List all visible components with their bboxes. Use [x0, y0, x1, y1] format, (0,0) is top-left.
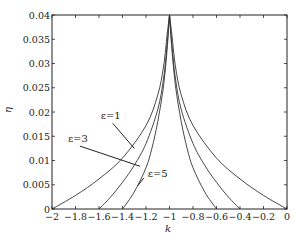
y-tick-label: 0.005	[23, 179, 50, 190]
curve-ε-5	[123, 15, 170, 209]
y-tick-label: 0.035	[23, 34, 50, 45]
x-tick-label: −1.6	[87, 211, 110, 222]
annotation-label: ε=5	[148, 168, 168, 179]
x-axis-label: k	[165, 223, 171, 234]
y-tick-label: 0.04	[29, 10, 50, 21]
x-tick-label: −0.6	[205, 211, 228, 222]
annotation-pointer	[80, 146, 140, 166]
y-tick-label: 0.015	[23, 131, 50, 142]
curve-ε-3	[170, 15, 241, 209]
line-chart: ε=1ε=3ε=5 −2−1.8−1.6−1.4−1.2−1−0.8−0.6−0…	[0, 0, 294, 242]
y-tick-label: 0.03	[29, 58, 50, 69]
annotation-label: ε=1	[101, 110, 121, 121]
x-tick-label: −1.2	[134, 211, 157, 222]
plot-frame	[52, 15, 287, 209]
curve-ε-5	[170, 15, 217, 209]
curves	[52, 15, 287, 209]
curve-ε-1	[170, 15, 288, 209]
annotation-label: ε=3	[68, 133, 88, 144]
y-tick-label: 0.025	[23, 82, 50, 93]
x-tick-label: 0	[284, 211, 290, 222]
annotation-pointer	[113, 123, 135, 148]
y-axis-label: η	[2, 107, 13, 113]
y-tick-label: 0.01	[29, 155, 50, 166]
x-tick-label: −0.4	[228, 211, 251, 222]
x-tick-label: −0.2	[252, 211, 275, 222]
annotations: ε=1ε=3ε=5	[68, 110, 168, 185]
y-tick-label: 0	[44, 204, 50, 215]
x-tick-label: −0.8	[181, 211, 204, 222]
x-tick-label: −1.4	[111, 211, 134, 222]
x-tick-label: −1	[162, 211, 176, 222]
x-tick-label: −1.8	[64, 211, 87, 222]
y-tick-label: 0.02	[29, 107, 50, 118]
